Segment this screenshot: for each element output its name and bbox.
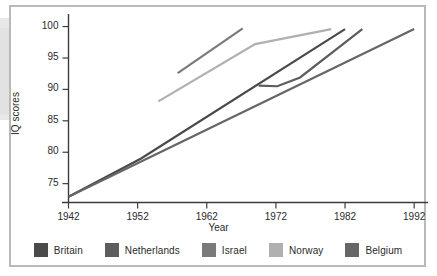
y-axis-tick-label: 90 (33, 82, 59, 93)
legend-item-netherlands: Netherlands (105, 243, 180, 257)
x-axis-ticks (69, 203, 415, 209)
x-axis-tick-label: 1952 (118, 211, 158, 222)
legend-swatch-icon (202, 243, 216, 257)
legend-swatch-icon (34, 243, 48, 257)
legend-item-label: Britain (54, 245, 83, 256)
legend-swatch-icon (105, 243, 119, 257)
legend-swatch-icon (269, 243, 283, 257)
series-line-belgium (69, 29, 415, 197)
series-line-netherlands (259, 29, 363, 86)
x-axis-tick-label: 1942 (49, 211, 89, 222)
chart-figure: IQ scores Year 7580859095100 19421952196… (0, 0, 437, 276)
x-axis-tick-label: 1982 (325, 211, 365, 222)
chart-legend: BritainNetherlandsIsraelNorwayBelgium (18, 239, 418, 261)
series-line-norway (158, 29, 331, 101)
legend-item-norway: Norway (269, 243, 324, 257)
legend-item-label: Belgium (365, 245, 402, 256)
y-axis-tick-label: 100 (33, 20, 59, 31)
series-line-israel (178, 28, 243, 73)
legend-item-label: Norway (289, 245, 324, 256)
legend-item-israel: Israel (202, 243, 247, 257)
x-axis-tick-label: 1972 (256, 211, 296, 222)
x-axis-tick-label: 1992 (394, 211, 434, 222)
y-axis-tick-label: 80 (33, 145, 59, 156)
series-lines-group (69, 28, 415, 196)
line-chart-plot (0, 0, 437, 276)
legend-item-label: Netherlands (125, 245, 180, 256)
y-axis-tick-label: 75 (33, 177, 59, 188)
x-axis-title: Year (0, 222, 437, 233)
legend-item-label: Israel (222, 245, 247, 256)
y-axis-tick-label: 95 (33, 51, 59, 62)
legend-item-britain: Britain (34, 243, 83, 257)
legend-swatch-icon (345, 243, 359, 257)
y-axis-title: IQ scores (10, 79, 21, 149)
legend-item-belgium: Belgium (345, 243, 402, 257)
x-axis-tick-label: 1962 (187, 211, 227, 222)
y-axis-ticks (63, 27, 69, 184)
y-axis-tick-label: 85 (33, 114, 59, 125)
